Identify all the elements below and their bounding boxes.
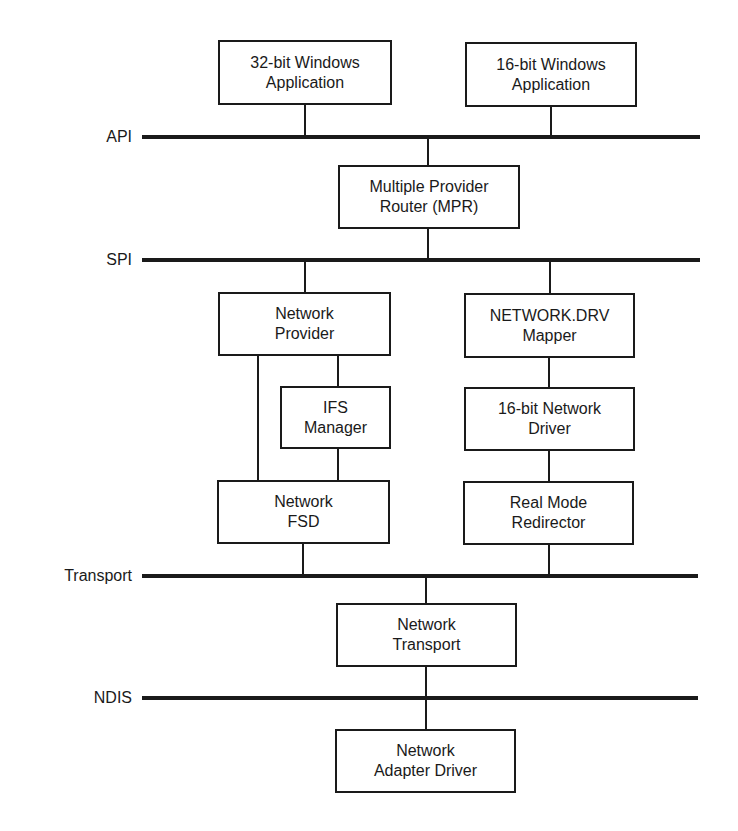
connector-network-transport-adapter [425, 666, 427, 730]
box-label-line-1: Network [274, 492, 333, 512]
network-architecture-diagram: API SPI Transport NDIS 32-bit Windows Ap… [0, 0, 738, 831]
box-label-line-1: 16-bit Network [498, 399, 601, 419]
transport-bus-line [142, 574, 698, 578]
box-label-line-1: 16-bit Windows [496, 55, 605, 75]
box-label-line-1: IFS [323, 398, 348, 418]
box-label-line-1: Real Mode [510, 493, 587, 513]
box-label-line-2: FSD [288, 512, 320, 532]
box-label-line-1: Network [397, 615, 456, 635]
transport-bus-label: Transport [2, 566, 132, 586]
box-network-fsd: Network FSD [217, 480, 390, 544]
box-label-line-2: Application [512, 75, 590, 95]
box-network-drv-mapper: NETWORK.DRV Mapper [464, 293, 635, 358]
connector-16bit-driver-redirector [548, 450, 550, 482]
box-multiple-provider-router: Multiple Provider Router (MPR) [338, 165, 520, 229]
box-label-line-1: NETWORK.DRV [490, 306, 610, 326]
connector-app32-api [304, 104, 306, 136]
connector-ifs-fsd [337, 448, 339, 481]
box-16bit-windows-application: 16-bit Windows Application [465, 42, 637, 107]
box-label-line-2: Transport [393, 635, 461, 655]
box-label-line-1: Multiple Provider [369, 177, 488, 197]
ndis-bus-line [142, 696, 698, 700]
connector-redirector-transport [548, 544, 550, 575]
box-network-provider: Network Provider [218, 292, 391, 356]
connector-mpr-spi [427, 228, 429, 259]
box-16bit-network-driver: 16-bit Network Driver [464, 387, 635, 451]
connector-transport-network-transport [425, 577, 427, 604]
api-bus-line [142, 135, 700, 139]
box-label-line-1: Network [396, 741, 455, 761]
connector-mapper-16bit-driver [548, 357, 550, 388]
connector-spi-network-drv-mapper [549, 261, 551, 294]
box-label-line-2: Mapper [522, 326, 576, 346]
connector-spi-network-provider [304, 261, 306, 293]
spi-bus-line [142, 258, 700, 262]
connector-api-mpr [427, 138, 429, 166]
box-label-line-2: Adapter Driver [374, 761, 477, 781]
connector-app16-api [550, 106, 552, 136]
box-label-line-1: 32-bit Windows [250, 53, 359, 73]
connector-fsd-transport [302, 543, 304, 575]
connector-network-provider-ifs [337, 355, 339, 387]
box-ifs-manager: IFS Manager [280, 386, 391, 449]
box-network-adapter-driver: Network Adapter Driver [335, 729, 516, 793]
box-label-line-2: Provider [275, 324, 335, 344]
box-32bit-windows-application: 32-bit Windows Application [218, 40, 392, 105]
ndis-bus-label: NDIS [2, 688, 132, 708]
api-bus-label: API [2, 127, 132, 147]
box-real-mode-redirector: Real Mode Redirector [463, 481, 634, 545]
box-label-line-2: Redirector [512, 513, 586, 533]
box-label-line-2: Application [266, 73, 344, 93]
box-network-transport: Network Transport [336, 603, 517, 667]
box-label-line-2: Router (MPR) [380, 197, 479, 217]
connector-network-provider-fsd [257, 355, 259, 481]
box-label-line-1: Network [275, 304, 334, 324]
box-label-line-2: Driver [528, 419, 571, 439]
spi-bus-label: SPI [2, 250, 132, 270]
box-label-line-2: Manager [304, 418, 367, 438]
